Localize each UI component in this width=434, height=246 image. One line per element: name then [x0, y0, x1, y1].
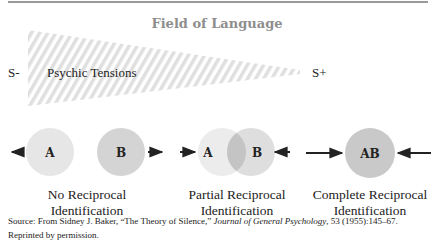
- source-prefix: Source: From Sidney J. Baker, “The Theor…: [8, 216, 213, 226]
- source-note: Source: From Sidney J. Baker, “The Theor…: [8, 214, 428, 242]
- circle-b-label: B: [116, 146, 126, 160]
- panel-no-reciprocal: A B: [12, 128, 162, 176]
- s-minus-label: S-: [8, 65, 20, 81]
- circle-a-partial-label: A: [202, 146, 213, 160]
- circle-ab-label: AB: [359, 147, 379, 161]
- panel-complete-reciprocal: AB: [306, 128, 431, 178]
- caption-line: No Reciprocal: [22, 187, 152, 203]
- caption-line: Complete Reciprocal: [305, 187, 434, 203]
- s-plus-label: S+: [312, 65, 327, 81]
- psychic-tensions-label: Psychic Tensions: [47, 65, 137, 81]
- source-journal: Journal of General Psychology: [213, 216, 326, 226]
- caption-line: Partial Reciprocal: [172, 187, 302, 203]
- panel-partial-reciprocal: A B: [180, 128, 290, 176]
- circle-b-partial-label: B: [252, 146, 262, 160]
- circle-a-label: A: [44, 146, 55, 160]
